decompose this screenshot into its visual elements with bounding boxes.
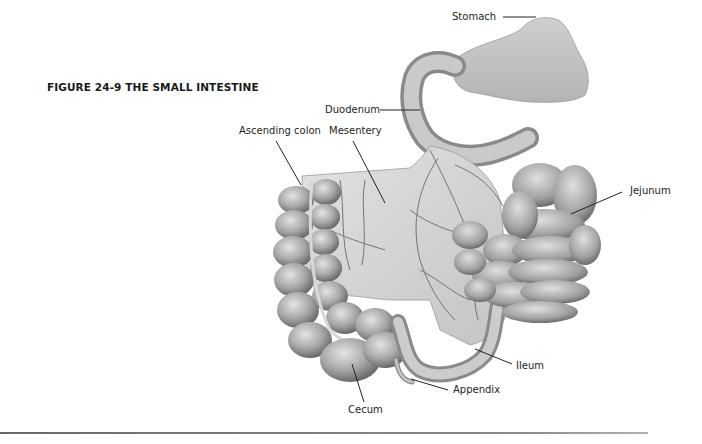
leader-line-appendix	[411, 379, 448, 390]
label-cecum: Cecum	[348, 404, 383, 416]
leader-line-ascending-colon	[276, 141, 301, 185]
label-duodenum: Duodenum	[325, 104, 380, 116]
label-stomach: Stomach	[452, 11, 496, 23]
label-ascending-colon: Ascending colon	[239, 125, 321, 137]
leader-lines	[0, 0, 702, 444]
label-ileum: Ileum	[516, 360, 544, 372]
label-jejunum: Jejunum	[630, 185, 671, 197]
leader-line-jejunum	[571, 192, 622, 214]
leader-line-cecum	[352, 364, 364, 402]
leader-line-ileum	[475, 349, 512, 364]
label-appendix: Appendix	[453, 384, 500, 396]
label-mesentery: Mesentery	[329, 125, 382, 137]
leader-line-mesentery	[353, 141, 385, 203]
bottom-rule-divider	[0, 432, 648, 434]
